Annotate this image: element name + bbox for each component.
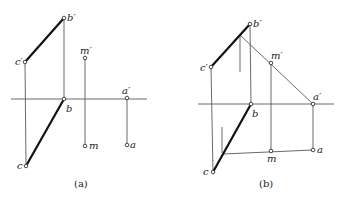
point-m <box>83 144 87 148</box>
line-cprime-bprime <box>211 24 250 67</box>
projector-c <box>25 62 26 166</box>
label-a-prime: a′ <box>313 91 322 102</box>
point-a-prime <box>125 96 129 100</box>
point-a <box>311 148 315 152</box>
label-c-prime: c′ <box>15 56 24 67</box>
line-cprime-bprime <box>25 18 64 62</box>
point-c <box>24 164 28 168</box>
projector-b <box>250 24 251 104</box>
point-b-prime <box>62 16 66 20</box>
caption-a: (a) <box>74 178 88 189</box>
label-c: c <box>17 160 23 171</box>
point-b <box>249 102 253 106</box>
point-b-prime <box>248 22 252 26</box>
label-b-prime: b′ <box>67 12 76 23</box>
label-a: a <box>130 139 136 150</box>
label-c-prime: c′ <box>200 62 209 73</box>
point-b <box>62 97 66 101</box>
label-m-prime: m′ <box>271 50 283 61</box>
caption-b: (b) <box>259 178 273 189</box>
point-c-prime <box>209 65 213 69</box>
label-c: c <box>203 166 209 177</box>
label-m: m <box>89 140 98 151</box>
label-m-prime: m′ <box>80 45 92 56</box>
point-m-prime <box>269 61 273 65</box>
label-b: b <box>66 103 72 114</box>
point-c-prime <box>23 60 27 64</box>
panel-a: b′ c′ m′ a′ b m a c (a) <box>11 12 147 189</box>
label-a-prime: a′ <box>122 85 131 96</box>
point-a <box>125 143 129 147</box>
projection-diagram: b′ c′ m′ a′ b m a c (a) b′ <box>0 0 338 197</box>
label-b-prime: b′ <box>253 18 262 29</box>
label-m: m <box>267 153 276 164</box>
line-c-b <box>213 104 251 172</box>
point-m-prime <box>83 56 87 60</box>
point-c <box>211 170 215 174</box>
label-b: b <box>252 108 258 119</box>
point-a-prime <box>311 102 315 106</box>
panel-b: b′ c′ m′ a′ b m a c (b) <box>198 18 334 189</box>
label-a: a <box>317 144 323 155</box>
line-c-b <box>26 99 64 166</box>
projector-c <box>211 67 213 172</box>
